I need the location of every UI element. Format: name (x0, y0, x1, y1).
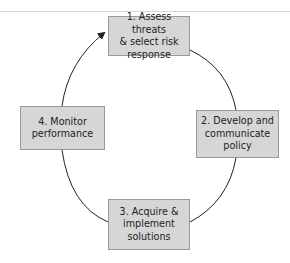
step-1-box: 1. Assess threats & select risk response (108, 16, 190, 56)
step-3-label: 3. Acquire & implement solutions (120, 206, 179, 244)
arrow-4-to-1 (62, 33, 104, 106)
step-4-box: 4. Monitor performance (20, 106, 105, 150)
step-4-label: 4. Monitor performance (32, 116, 93, 141)
step-2-label: 2. Develop and communicate policy (201, 115, 274, 153)
arrow-1-to-2 (190, 50, 236, 110)
arrow-3-to-4 (62, 150, 108, 222)
step-1-label: 1. Assess threats & select risk response (112, 11, 186, 61)
step-3-box: 3. Acquire & implement solutions (108, 199, 190, 250)
step-2-box: 2. Develop and communicate policy (196, 110, 279, 158)
arrow-2-to-3 (190, 158, 236, 222)
